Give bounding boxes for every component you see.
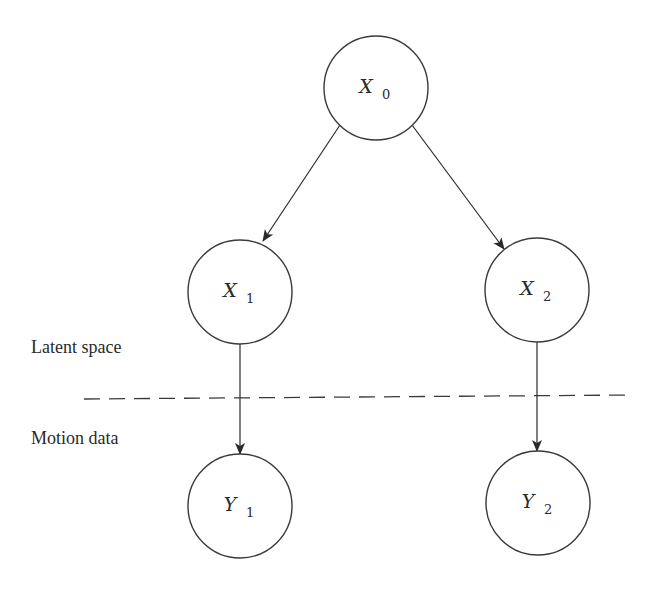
svg-text:1: 1 (246, 291, 254, 306)
node-x2: X 2 (485, 238, 589, 342)
node-y1: Y 1 (188, 454, 292, 558)
latent-observed-divider (84, 395, 632, 399)
svg-text:2: 2 (544, 502, 552, 517)
svg-text:X: X (518, 277, 535, 299)
latent-space-label: Latent space (31, 337, 121, 358)
diagram-canvas: X 0 X 1 X 2 Y 1 Y 2 (0, 0, 662, 589)
node-x1: X 1 (188, 240, 292, 344)
edge-x0-x2 (412, 125, 504, 249)
svg-text:0: 0 (382, 87, 390, 102)
motion-data-label: Motion data (31, 428, 119, 449)
svg-text:1: 1 (246, 505, 254, 520)
edge-x0-x1 (263, 125, 340, 241)
svg-text:2: 2 (543, 289, 551, 304)
svg-text:X: X (357, 75, 374, 97)
svg-text:X: X (221, 279, 238, 301)
node-x0: X 0 (324, 36, 428, 140)
node-y2: Y 2 (486, 451, 590, 555)
